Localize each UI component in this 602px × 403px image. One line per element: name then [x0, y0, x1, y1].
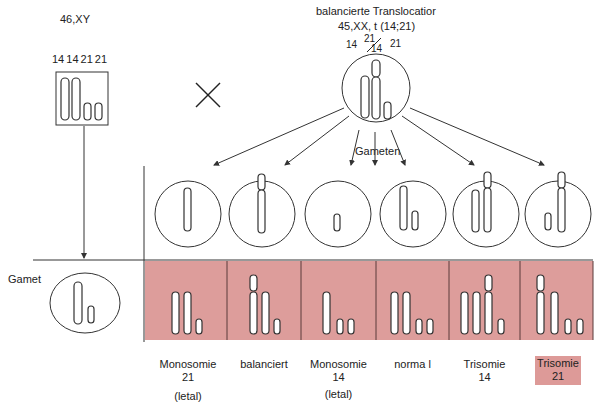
result-normal: norma l: [376, 358, 449, 371]
cross-icon: [196, 83, 220, 107]
translocation-diagram: [0, 0, 602, 403]
result-monosomie-14: Monosomie14 (letal): [301, 358, 376, 401]
result-trisomie-14: Trisomie14: [449, 358, 520, 384]
result-trisomie-21: Trisomie21: [535, 356, 581, 385]
result-monosomie-21: Monosomie21 (letal): [150, 358, 226, 403]
maternal-gametes: [155, 181, 591, 247]
zygote-row: [145, 261, 593, 340]
paternal-gamete: [50, 273, 120, 333]
mother-cell: [342, 54, 410, 122]
father-karyotype-box: [56, 72, 108, 125]
result-balanciert: balanciert: [227, 358, 301, 371]
